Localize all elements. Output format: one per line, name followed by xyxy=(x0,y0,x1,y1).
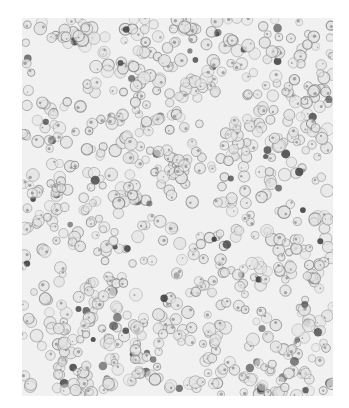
cell-micrograph xyxy=(22,18,333,396)
cell-field xyxy=(22,18,333,396)
